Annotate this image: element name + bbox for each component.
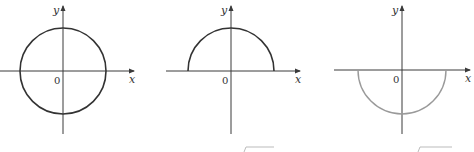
y-axis-label: y [220,4,228,17]
graph-upper-semicircle: x y 0 [166,4,302,134]
figure-canvas: x y 0 x y 0 x y 0 [0,0,474,152]
y-axis-label: y [52,4,60,17]
radical-sign-fragment [418,147,452,152]
y-axis-label: y [391,4,399,17]
x-axis-label: x [465,72,472,85]
x-axis-label: x [129,73,136,86]
origin-label: 0 [222,75,228,86]
x-axis-label: x [295,73,302,86]
radical-sign-fragment [244,147,274,152]
origin-label: 0 [393,74,399,85]
graph-full-circle: x y 0 [0,4,136,134]
graph-lower-semicircle: x y 0 [334,4,472,134]
origin-label: 0 [54,75,60,86]
cropped-captions [244,147,452,152]
